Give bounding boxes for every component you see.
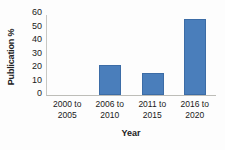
y-tick-label: 50 (22, 21, 42, 30)
x-tick-label-line2: 2005 (46, 110, 89, 121)
y-tick-label: 20 (22, 62, 42, 71)
x-tick-label-line2: 2015 (131, 110, 174, 121)
x-tick-label: 2006 to2010 (89, 99, 132, 121)
x-tick-label-line1: 2016 to (181, 99, 209, 109)
y-tick-label: 40 (22, 35, 42, 44)
x-tick-label: 2011 to2015 (131, 99, 174, 121)
plot-area (46, 15, 216, 96)
y-axis-tick-labels: 0102030405060 (22, 12, 42, 96)
bar-slot (89, 15, 131, 95)
y-tick-label: 10 (22, 75, 42, 84)
y-tick-label: 0 (22, 89, 42, 98)
bar-slot (132, 15, 174, 95)
bar (142, 73, 164, 95)
bar-chart: Publication % 0102030405060 2000 to20052… (0, 0, 225, 150)
x-tick-label: 2016 to2020 (174, 99, 217, 121)
x-tick-label-line1: 2011 to (138, 99, 166, 109)
y-tick-label: 30 (22, 48, 42, 57)
x-axis-title: Year (46, 128, 216, 138)
bar (99, 65, 121, 95)
bar-slot (174, 15, 216, 95)
x-tick-label-line1: 2000 to (53, 99, 81, 109)
x-axis-tick-labels: 2000 to20052006 to20102011 to20152016 to… (46, 99, 216, 121)
x-tick-label-line1: 2006 to (96, 99, 124, 109)
x-tick-label-line2: 2020 (174, 110, 217, 121)
x-tick-label: 2000 to2005 (46, 99, 89, 121)
y-tick-label: 60 (22, 8, 42, 17)
x-tick-label-line2: 2010 (89, 110, 132, 121)
bar (184, 19, 206, 95)
bar-slot (47, 15, 89, 95)
y-axis-title: Publication % (6, 15, 16, 99)
bars-layer (47, 15, 216, 95)
